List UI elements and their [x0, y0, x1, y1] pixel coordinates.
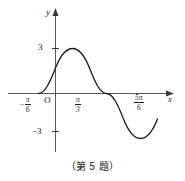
y-axis-label: y: [46, 8, 50, 17]
minus-sign: −: [20, 100, 24, 109]
y-tick-label-positive-three: 3: [38, 43, 43, 52]
x-tick-label-neg-pi-over-6: − π 6: [20, 96, 31, 113]
fraction-numerator: π: [75, 96, 81, 105]
fraction-denominator: 3: [76, 105, 80, 113]
fraction-numerator: π: [25, 96, 31, 105]
fraction-denominator: 6: [26, 105, 30, 113]
figure-container: y x O 3 −3 − π 6 π 3 5π 6 （第 5 题）: [0, 0, 185, 181]
x-axis-label: x: [168, 95, 172, 104]
x-tick-label-pi-over-3: π 3: [75, 96, 81, 113]
x-tick-label-five-pi-over-6: 5π 6: [134, 94, 144, 111]
origin-label: O: [44, 96, 51, 105]
fraction-neg-pi-over-6: π 6: [25, 96, 31, 113]
figure-caption: （第 5 题）: [0, 158, 185, 173]
y-axis-arrowhead: [53, 8, 59, 16]
sine-curve-plot: [0, 0, 185, 158]
fraction-numerator: 5π: [134, 94, 144, 103]
fraction-denominator: 6: [137, 103, 141, 111]
y-tick-label-negative-three: −3: [32, 127, 42, 136]
